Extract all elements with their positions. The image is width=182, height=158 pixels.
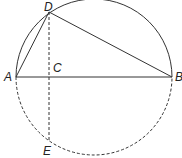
label-c: C: [53, 61, 62, 75]
segment-ad: [16, 12, 49, 77]
circle-lower-arc: [16, 77, 172, 155]
segment-db: [49, 12, 172, 77]
geometry-diagram: A B C D E: [0, 0, 182, 158]
diagram-svg: A B C D E: [0, 0, 182, 158]
circle-upper-arc: [16, 0, 172, 77]
label-b: B: [175, 70, 182, 84]
label-e: E: [43, 144, 52, 158]
label-d: D: [44, 0, 53, 14]
label-a: A: [3, 70, 12, 84]
